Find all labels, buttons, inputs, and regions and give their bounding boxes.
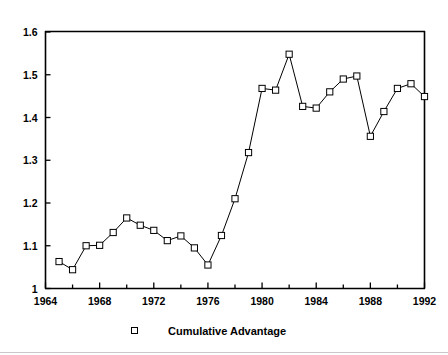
data-point-marker — [354, 73, 360, 79]
data-point-marker — [56, 258, 62, 264]
y-tick-label: 1.3 — [23, 154, 38, 166]
data-point-marker — [327, 89, 333, 95]
data-point-marker — [151, 227, 157, 233]
y-tick-label: 1.5 — [23, 69, 38, 81]
chart-figure: 11.11.21.31.41.51.6 19641968197219761980… — [0, 0, 448, 355]
y-axis-ticks: 11.11.21.31.41.51.6 — [23, 26, 51, 295]
x-tick-label: 1988 — [359, 295, 383, 307]
data-point-marker — [273, 87, 279, 93]
y-tick-label: 1.1 — [23, 240, 38, 252]
data-point-marker — [205, 262, 211, 268]
x-tick-label: 1984 — [305, 295, 329, 307]
series-markers-cumulative-advantage — [56, 51, 428, 273]
data-point-marker — [83, 243, 89, 249]
data-point-marker — [408, 81, 414, 87]
data-point-marker — [69, 267, 75, 273]
data-point-marker — [300, 103, 306, 109]
y-tick-label: 1.6 — [23, 26, 38, 38]
legend-label-cumulative-advantage: Cumulative Advantage — [168, 325, 286, 337]
data-point-marker — [110, 229, 116, 235]
data-point-marker — [124, 215, 130, 221]
data-point-marker — [232, 196, 238, 202]
data-point-marker — [218, 232, 224, 238]
data-point-marker — [421, 93, 427, 99]
y-tick-label: 1.2 — [23, 197, 38, 209]
data-point-marker — [259, 85, 265, 91]
x-tick-label: 1972 — [142, 295, 166, 307]
y-tick-label: 1.4 — [23, 112, 38, 124]
data-point-marker — [313, 105, 319, 111]
x-tick-label: 1968 — [88, 295, 112, 307]
data-point-marker — [137, 222, 143, 228]
chart-legend: Cumulative Advantage — [132, 325, 287, 337]
chart-axes — [45, 31, 425, 289]
x-tick-label: 1964 — [34, 295, 58, 307]
data-point-marker — [191, 245, 197, 251]
data-point-marker — [367, 133, 373, 139]
line-chart: 11.11.21.31.41.51.6 19641968197219761980… — [0, 0, 448, 355]
x-tick-label: 1976 — [196, 295, 220, 307]
y-tick-label: 1 — [32, 283, 38, 295]
x-tick-label: 1992 — [413, 295, 437, 307]
data-point-marker — [381, 108, 387, 114]
data-point-marker — [340, 76, 346, 82]
x-tick-label: 1980 — [250, 295, 274, 307]
data-point-marker — [245, 149, 251, 155]
legend-marker-icon — [132, 328, 138, 334]
data-point-marker — [164, 238, 170, 244]
series-line-cumulative-advantage — [59, 54, 424, 269]
data-point-marker — [97, 242, 103, 248]
data-point-marker — [286, 51, 292, 57]
data-point-marker — [394, 85, 400, 91]
data-point-marker — [178, 233, 184, 239]
